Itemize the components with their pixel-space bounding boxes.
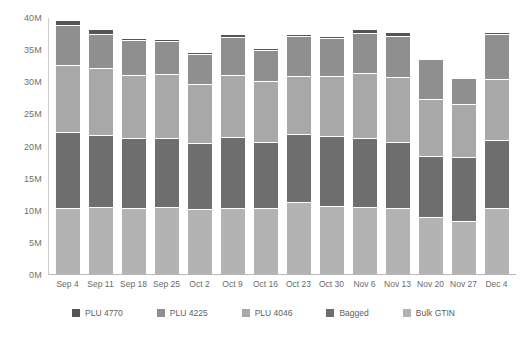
bar-segment[interactable]	[254, 51, 278, 82]
bar-segment[interactable]	[452, 105, 476, 158]
stacked-bar[interactable]	[485, 33, 509, 275]
bar-segment[interactable]	[56, 26, 80, 65]
bar-column[interactable]	[249, 18, 282, 275]
bar-column[interactable]	[84, 18, 117, 275]
bar-segment[interactable]	[287, 37, 311, 77]
bar-segment[interactable]	[353, 208, 377, 275]
legend-item[interactable]: PLU 4046	[242, 308, 293, 318]
bar-segment[interactable]	[155, 75, 179, 139]
bar-segment[interactable]	[287, 135, 311, 203]
bar-column[interactable]	[315, 18, 348, 275]
bar-segment[interactable]	[485, 80, 509, 142]
bar-segment[interactable]	[485, 141, 509, 209]
bar-segment[interactable]	[287, 77, 311, 135]
bar-segment[interactable]	[188, 55, 212, 86]
stacked-bar[interactable]	[353, 30, 377, 275]
stacked-bar[interactable]	[386, 33, 410, 275]
legend-label: Bagged	[339, 308, 368, 318]
bar-segment[interactable]	[419, 100, 443, 157]
bar-segment[interactable]	[254, 143, 278, 210]
x-axis: Sep 4Sep 11Sep 18Sep 25Oct 2Oct 9Oct 16O…	[48, 279, 516, 289]
bar-segment[interactable]	[386, 143, 410, 209]
bar-column[interactable]	[216, 18, 249, 275]
bar-segment[interactable]	[386, 78, 410, 143]
x-axis-tick-label: Sep 4	[51, 279, 84, 289]
bar-column[interactable]	[414, 18, 447, 275]
bar-segment[interactable]	[452, 158, 476, 222]
stacked-bar[interactable]	[419, 59, 443, 275]
x-axis-tick-label: Nov 13	[381, 279, 414, 289]
stacked-bar[interactable]	[122, 39, 146, 275]
bar-column[interactable]	[51, 18, 84, 275]
bar-segment[interactable]	[221, 209, 245, 275]
bar-segment[interactable]	[89, 136, 113, 208]
x-axis-tick-label: Oct 30	[315, 279, 348, 289]
bar-segment[interactable]	[155, 42, 179, 75]
bar-column[interactable]	[348, 18, 381, 275]
stacked-bar[interactable]	[56, 21, 80, 275]
bar-segment[interactable]	[452, 79, 476, 105]
legend-item[interactable]: PLU 4770	[72, 308, 123, 318]
bar-segment[interactable]	[122, 41, 146, 76]
bar-column[interactable]	[282, 18, 315, 275]
bar-column[interactable]	[381, 18, 414, 275]
bar-column[interactable]	[183, 18, 216, 275]
bar-segment[interactable]	[320, 39, 344, 77]
bar-segment[interactable]	[89, 69, 113, 136]
bar-segment[interactable]	[419, 60, 443, 99]
bar-segment[interactable]	[485, 35, 509, 80]
bar-segment[interactable]	[188, 144, 212, 210]
bar-column[interactable]	[447, 18, 480, 275]
bar-segment[interactable]	[287, 203, 311, 275]
stacked-bar[interactable]	[221, 35, 245, 275]
stacked-bar[interactable]	[320, 37, 344, 275]
legend-item[interactable]: Bagged	[326, 308, 368, 318]
bar-segment[interactable]	[386, 209, 410, 275]
legend-swatch-icon	[403, 309, 411, 317]
bar-segment[interactable]	[254, 82, 278, 143]
bar-segment[interactable]	[122, 76, 146, 139]
stacked-bar[interactable]	[452, 78, 476, 275]
y-axis-tick-label: 40M	[24, 13, 42, 23]
bar-column[interactable]	[117, 18, 150, 275]
bar-segment[interactable]	[419, 157, 443, 218]
x-axis-tick-label: Dec 4	[480, 279, 513, 289]
bar-column[interactable]	[150, 18, 183, 275]
bar-segment[interactable]	[254, 209, 278, 275]
bar-segment[interactable]	[221, 76, 245, 138]
legend-label: PLU 4770	[85, 308, 123, 318]
bar-segment[interactable]	[188, 85, 212, 143]
chart-legend: PLU 4770PLU 4225PLU 4046BaggedBulk GTIN	[0, 308, 527, 318]
stacked-bar[interactable]	[89, 30, 113, 275]
bar-segment[interactable]	[221, 38, 245, 77]
bar-segment[interactable]	[56, 66, 80, 133]
stacked-bar[interactable]	[155, 40, 179, 275]
bar-segment[interactable]	[485, 209, 509, 275]
bar-segment[interactable]	[89, 35, 113, 70]
bar-segment[interactable]	[353, 34, 377, 74]
bar-segment[interactable]	[56, 209, 80, 275]
bar-segment[interactable]	[320, 77, 344, 137]
bar-segment[interactable]	[122, 209, 146, 275]
stacked-bar[interactable]	[287, 35, 311, 275]
bar-segment[interactable]	[122, 139, 146, 209]
bar-segment[interactable]	[353, 74, 377, 140]
bar-segment[interactable]	[89, 208, 113, 275]
bar-segment[interactable]	[188, 210, 212, 275]
bar-segment[interactable]	[221, 138, 245, 209]
legend-item[interactable]: Bulk GTIN	[403, 308, 455, 318]
bar-segment[interactable]	[155, 208, 179, 275]
bar-column[interactable]	[480, 18, 513, 275]
stacked-bar[interactable]	[188, 53, 212, 275]
x-axis-tick-label: Oct 23	[282, 279, 315, 289]
bar-segment[interactable]	[320, 207, 344, 275]
bar-segment[interactable]	[386, 37, 410, 79]
bar-segment[interactable]	[353, 139, 377, 208]
legend-item[interactable]: PLU 4225	[157, 308, 208, 318]
bar-segment[interactable]	[320, 137, 344, 207]
bar-segment[interactable]	[419, 218, 443, 275]
bar-segment[interactable]	[155, 139, 179, 208]
bar-segment[interactable]	[452, 222, 476, 275]
stacked-bar[interactable]	[254, 49, 278, 275]
bar-segment[interactable]	[56, 133, 80, 209]
